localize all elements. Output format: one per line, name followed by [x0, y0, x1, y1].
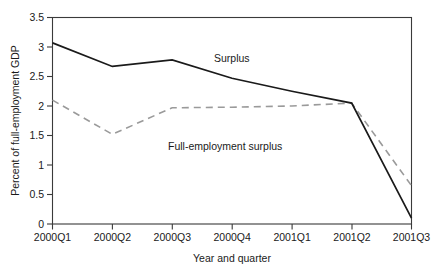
y-tick-label: 3.5 — [29, 11, 44, 23]
series-annotation-surplus: Surplus — [214, 52, 250, 64]
x-tick-label: 2000Q3 — [154, 231, 192, 243]
y-tick-label: 3 — [38, 41, 44, 53]
chart-container: 3.5 3 2.5 2 1.5 1 0.5 0 2000Q1 2000Q2 20… — [0, 0, 440, 277]
y-tick-label: 1.5 — [29, 129, 44, 141]
line-chart: 3.5 3 2.5 2 1.5 1 0.5 0 2000Q1 2000Q2 20… — [0, 0, 440, 277]
x-tick-label: 2000Q1 — [34, 231, 72, 243]
series-annotation-full-employment-surplus: Full-employment surplus — [168, 140, 282, 152]
y-tick-label: 0.5 — [29, 188, 44, 200]
y-axis-ticks — [47, 18, 53, 225]
y-axis-title: Percent of full-employment GDP — [9, 45, 21, 196]
x-tick-label: 2001Q3 — [393, 231, 431, 243]
x-tick-label: 2001Q1 — [273, 231, 311, 243]
x-tick-label: 2000Q4 — [214, 231, 252, 243]
x-axis-tick-labels: 2000Q1 2000Q2 2000Q3 2000Q4 2001Q1 2001Q… — [34, 231, 431, 243]
y-tick-label: 2.5 — [29, 70, 44, 82]
plot-frame — [53, 18, 412, 225]
x-axis-title: Year and quarter — [193, 252, 271, 264]
y-tick-label: 0 — [38, 218, 44, 230]
x-tick-label: 2001Q2 — [333, 231, 371, 243]
y-tick-label: 1 — [38, 159, 44, 171]
x-axis-ticks — [53, 224, 412, 230]
x-tick-label: 2000Q2 — [94, 231, 132, 243]
y-axis-tick-labels: 3.5 3 2.5 2 1.5 1 0.5 0 — [29, 11, 44, 230]
y-tick-label: 2 — [38, 100, 44, 112]
